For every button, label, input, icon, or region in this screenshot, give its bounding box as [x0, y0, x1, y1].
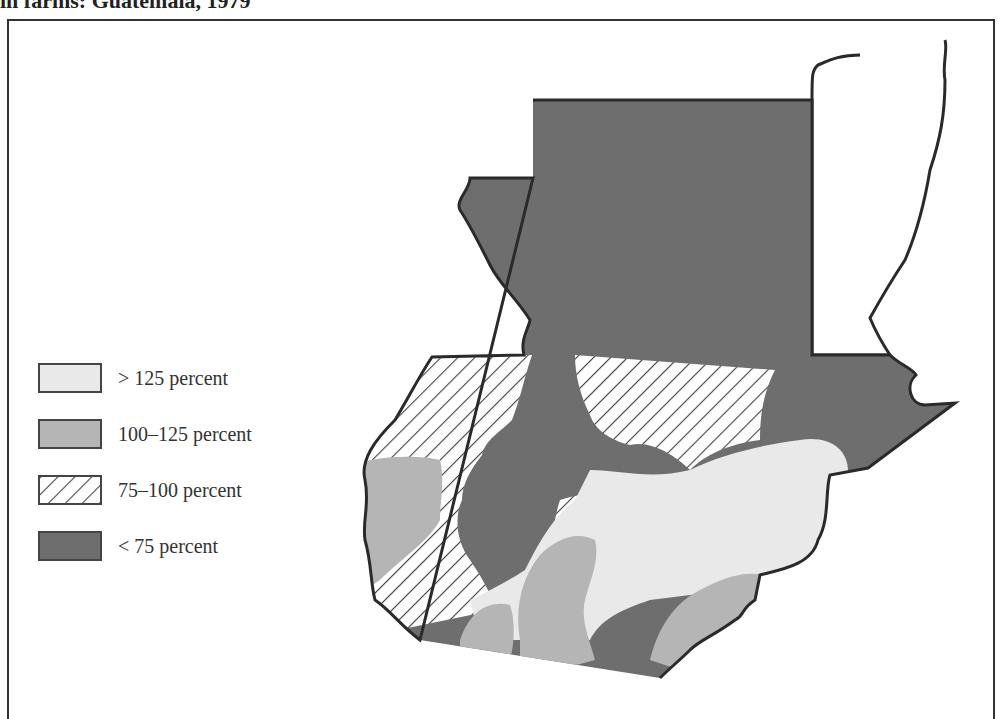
swatch-medium-gray — [38, 419, 102, 449]
swatch-diagonal-hatch — [38, 475, 102, 505]
swatch-light-gray — [38, 363, 102, 393]
legend-label: > 125 percent — [118, 367, 228, 390]
legend-label: < 75 percent — [118, 535, 218, 558]
legend-item-100-125: 100–125 percent — [38, 420, 252, 448]
legend-label: 75–100 percent — [118, 479, 242, 502]
legend-item-75-100: 75–100 percent — [38, 476, 252, 504]
legend-item-over-125: > 125 percent — [38, 364, 252, 392]
swatch-dark-gray — [38, 531, 102, 561]
belize-border — [812, 40, 946, 355]
legend-label: 100–125 percent — [118, 423, 252, 446]
legend: > 125 percent 100–125 percent 75–100 per… — [38, 364, 252, 588]
legend-item-under-75: < 75 percent — [38, 532, 252, 560]
